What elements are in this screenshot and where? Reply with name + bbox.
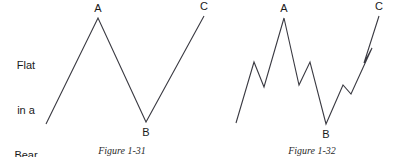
point-label-left-a: A xyxy=(91,2,105,14)
point-label-left-b: B xyxy=(139,126,153,138)
side-annotation-line-3: Bear xyxy=(0,148,52,157)
figure-root: Flat in a Bear Market A B C A B C Figure… xyxy=(0,0,395,157)
zigzag-plots xyxy=(0,0,395,157)
point-label-right-a: A xyxy=(277,2,291,14)
figure-caption-right: Figure 1-32 xyxy=(252,145,372,157)
side-annotation-line-1: Flat xyxy=(0,58,52,73)
point-label-left-c: C xyxy=(197,0,211,12)
point-label-right-c: C xyxy=(372,0,386,12)
zigzag-polyline-right xyxy=(236,16,379,124)
side-annotation-flat-in-a-bear-market: Flat in a Bear Market xyxy=(0,28,52,157)
side-annotation-line-2: in a xyxy=(0,103,52,118)
point-label-right-b: B xyxy=(319,128,333,140)
zigzag-polyline-left xyxy=(46,16,204,124)
figure-caption-left: Figure 1-31 xyxy=(62,145,182,157)
